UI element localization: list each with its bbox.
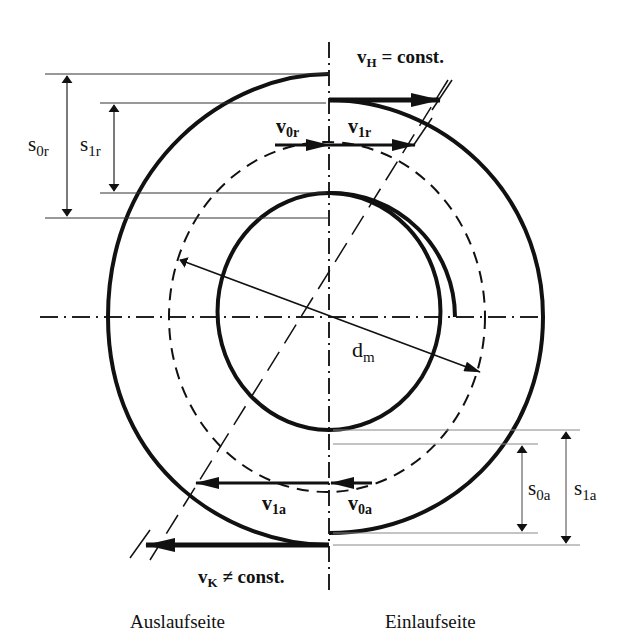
diagonal-dashed-line xyxy=(150,80,448,560)
rolling-diagram: vH = const. v0r v1r v1a v0a vK ≠ const. … xyxy=(0,0,631,635)
v1a-label: v1a xyxy=(262,492,286,517)
s0r-label: s0r xyxy=(28,132,49,159)
vh-label: vH = const. xyxy=(357,46,444,70)
s1a-label: s1a xyxy=(574,476,597,503)
exit-side-label: Auslaufseite xyxy=(130,611,225,632)
s1r-extension-lines xyxy=(100,103,326,193)
v0r-label: v0r xyxy=(276,115,299,140)
vh-tick xyxy=(432,80,452,110)
s1r-label: s1r xyxy=(80,132,101,159)
entry-side-label: Einlaufseite xyxy=(385,611,476,632)
vk-label: vK ≠ const. xyxy=(198,566,285,590)
dm-label: dm xyxy=(352,337,375,365)
s0a-label: s0a xyxy=(528,476,551,503)
v1r-label: v1r xyxy=(348,115,371,140)
inner-circle xyxy=(218,193,441,430)
s0a-extension-lines xyxy=(333,444,538,533)
v0a-label: v0a xyxy=(348,492,372,517)
